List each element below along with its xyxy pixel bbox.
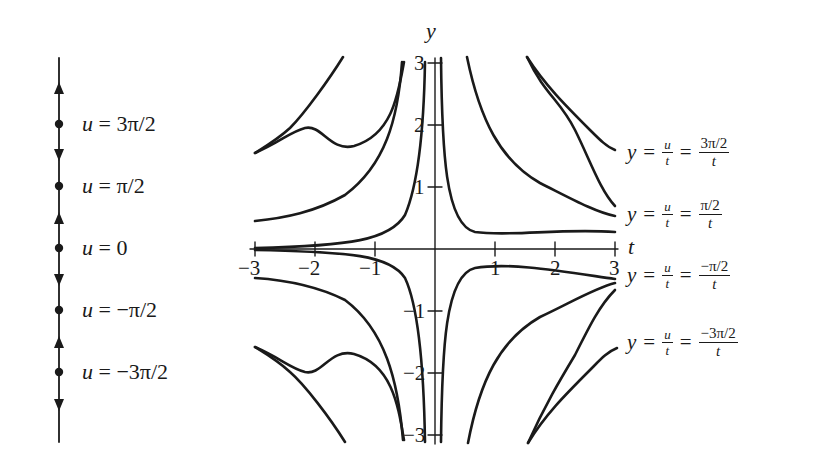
y-tick-label: 2: [414, 113, 425, 138]
label-value: 0: [116, 235, 127, 260]
label-value: 3π/2: [116, 111, 155, 136]
arrow-down-icon: [54, 274, 64, 286]
t-tick-label: 1: [490, 256, 501, 281]
curve-equation: y = u t = 3π/2 t: [627, 136, 729, 169]
arrow-up-icon: [54, 82, 64, 94]
equilibrium-dot: [55, 368, 63, 376]
arrow-down-icon: [54, 399, 64, 411]
solution-curve: [527, 57, 615, 150]
eq-sign: =: [680, 140, 692, 165]
solution-curve: [255, 347, 345, 442]
fraction-numerator: u: [662, 138, 673, 153]
eq-sign: =: [680, 330, 692, 355]
fraction-numerator: u: [662, 328, 673, 343]
fraction-numerator: −3π/2: [699, 326, 738, 343]
label-eq: =: [99, 111, 111, 136]
equilibrium-dot: [55, 244, 63, 252]
arrow-down-icon: [54, 149, 64, 161]
label-eq: =: [99, 173, 111, 198]
y-tick-label: −1: [403, 299, 425, 324]
label-eq: =: [99, 235, 111, 260]
eq-lhs: y: [627, 263, 636, 288]
fraction-numerator: 3π/2: [699, 136, 730, 153]
eq-sign: =: [643, 263, 655, 288]
curve-equation: y = u t = −3π/2 t: [627, 326, 738, 359]
equilibrium-label: u = 0: [82, 235, 127, 261]
y-tick-label: −2: [403, 361, 425, 386]
fraction: −π/2 t: [699, 259, 731, 292]
label-var: u: [82, 297, 93, 322]
fraction: π/2 t: [699, 198, 722, 231]
fraction: u t: [662, 261, 673, 290]
eq-lhs: y: [627, 202, 636, 227]
arrow-up-icon: [54, 336, 64, 348]
fraction-denominator: t: [666, 153, 670, 167]
equilibrium-label: u = −3π/2: [82, 359, 168, 385]
solution-curve: [468, 283, 615, 443]
equilibrium-dot: [55, 120, 63, 128]
solution-curves: [255, 57, 617, 443]
label-value: π/2: [116, 173, 144, 198]
diagram-graphics: [0, 0, 824, 466]
eq-sign: =: [643, 330, 655, 355]
fraction-numerator: u: [662, 200, 673, 215]
fraction-numerator: π/2: [699, 198, 722, 215]
eq-sign: =: [680, 202, 692, 227]
fraction-denominator: t: [666, 343, 670, 357]
curve-equation: y = u t = π/2 t: [627, 198, 722, 231]
fraction: u t: [662, 138, 673, 167]
fraction-denominator: t: [708, 215, 712, 231]
equilibrium-label: u = π/2: [82, 173, 145, 199]
equilibrium-label: u = 3π/2: [82, 111, 156, 137]
eq-lhs: y: [627, 140, 636, 165]
solution-curve: [528, 290, 615, 443]
equilibrium-label: u = −π/2: [82, 297, 157, 323]
y-tick-label: 3: [414, 51, 425, 76]
label-eq: =: [99, 359, 111, 384]
fraction: −3π/2 t: [699, 326, 738, 359]
fraction-denominator: t: [666, 276, 670, 290]
label-var: u: [82, 173, 93, 198]
eq-sign: =: [643, 202, 655, 227]
t-tick-label: 2: [550, 256, 561, 281]
arrow-up-icon: [54, 212, 64, 224]
t-tick-label: −1: [359, 256, 381, 281]
label-var: u: [82, 235, 93, 260]
fraction: 3π/2 t: [699, 136, 730, 169]
y-tick-label: 1: [414, 175, 425, 200]
fraction-denominator: t: [716, 343, 720, 359]
eq-sign: =: [643, 140, 655, 165]
t-tick-label: 3: [609, 256, 620, 281]
label-value: −π/2: [116, 297, 157, 322]
fraction-denominator: t: [712, 276, 716, 292]
curve-equation: y = u t = −π/2 t: [627, 259, 730, 292]
fraction: u t: [662, 200, 673, 229]
fraction-denominator: t: [666, 215, 670, 229]
equilibrium-dot: [55, 182, 63, 190]
fraction-numerator: u: [662, 261, 673, 276]
t-tick-label: −2: [298, 256, 320, 281]
label-var: u: [82, 359, 93, 384]
y-tick-label: −3: [403, 423, 425, 448]
fraction-numerator: −π/2: [699, 259, 731, 276]
figure: u = 3π/2 u = π/2 u = 0 u = −π/2 u = −3π/…: [0, 0, 824, 466]
equilibrium-dot: [55, 306, 63, 314]
t-tick-label: −3: [238, 256, 260, 281]
solution-curve: [528, 348, 617, 443]
y-axis-label: y: [426, 18, 436, 44]
eq-sign: =: [680, 263, 692, 288]
label-value: −3π/2: [116, 359, 168, 384]
label-eq: =: [99, 297, 111, 322]
label-var: u: [82, 111, 93, 136]
eq-lhs: y: [627, 330, 636, 355]
fraction-denominator: t: [712, 153, 716, 169]
t-axis-label: t: [628, 234, 634, 260]
fraction: u t: [662, 328, 673, 357]
